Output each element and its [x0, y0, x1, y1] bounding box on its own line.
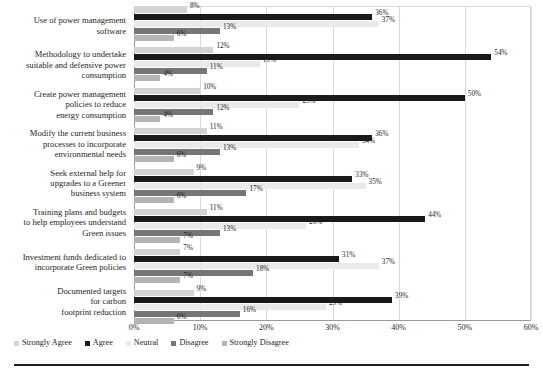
bar-value-label: 29%: [329, 300, 342, 307]
bar-group: 11%44%26%13%7%: [134, 209, 531, 248]
bar-row: 11%: [134, 128, 531, 134]
bar-row: 16%: [134, 311, 531, 317]
category-label-line: upgrades to a Greener: [50, 178, 126, 188]
bar[interactable]: [134, 109, 213, 115]
category-label: Investment funds dedicated toincorporate…: [0, 242, 130, 281]
bar-row: 36%: [134, 14, 531, 20]
bar-row: 50%: [134, 95, 531, 101]
category-label: Use of power managementsoftware: [0, 6, 130, 45]
bar-groups: 8%36%37%13%6%12%54%19%11%4%10%50%25%12%4…: [134, 6, 531, 321]
bar-value-label: 36%: [375, 131, 388, 138]
category-label-line: for carbon: [57, 296, 126, 306]
bar[interactable]: [134, 256, 339, 262]
x-tick-label: 20%: [259, 323, 274, 333]
bar-group: 12%54%19%11%4%: [134, 47, 531, 86]
bar-row: 4%: [134, 75, 531, 81]
bar[interactable]: [134, 176, 352, 182]
bar-row: 8%: [134, 7, 531, 13]
bar[interactable]: [134, 14, 372, 20]
bar[interactable]: [134, 75, 160, 81]
bar-row: 31%: [134, 256, 531, 262]
category-label-line: Documented targets: [57, 286, 126, 296]
legend-item[interactable]: Strongly Agree: [14, 338, 72, 348]
bar[interactable]: [134, 142, 359, 148]
bar[interactable]: [134, 209, 207, 215]
bar-value-label: 11%: [210, 64, 223, 71]
bar-value-label: 34%: [362, 138, 375, 145]
bar-value-label: 4%: [163, 112, 173, 119]
bar-value-label: 7%: [183, 245, 193, 252]
bar[interactable]: [134, 297, 392, 303]
bar-value-label: 12%: [216, 105, 229, 112]
legend-item[interactable]: Neutral: [126, 338, 159, 348]
bar-row: 34%: [134, 142, 531, 148]
bar[interactable]: [134, 95, 465, 101]
legend-label: Agree: [93, 338, 113, 348]
bar-row: 7%: [134, 277, 531, 283]
bar[interactable]: [134, 116, 160, 122]
bar[interactable]: [134, 270, 253, 276]
bar-row: 6%: [134, 156, 531, 162]
category-label-line: business system: [50, 188, 126, 198]
bar[interactable]: [134, 54, 491, 60]
bar[interactable]: [134, 169, 194, 175]
bar-group: 7%31%37%18%7%: [134, 249, 531, 288]
bar[interactable]: [134, 290, 194, 296]
bar[interactable]: [134, 88, 200, 94]
bar[interactable]: [134, 128, 207, 134]
bar-row: 54%: [134, 54, 531, 60]
bar[interactable]: [134, 249, 180, 255]
bar-value-label: 13%: [223, 226, 236, 233]
bar-value-label: 6%: [177, 152, 187, 159]
bar-row: 44%: [134, 216, 531, 222]
bar[interactable]: [134, 156, 174, 162]
bar[interactable]: [134, 223, 306, 229]
legend-item[interactable]: Strongly Disagree: [222, 338, 289, 348]
bar[interactable]: [134, 277, 180, 283]
bar-group: 8%36%37%13%6%: [134, 7, 531, 46]
bar-row: 18%: [134, 270, 531, 276]
bar-value-label: 6%: [177, 193, 187, 200]
bar-row: 35%: [134, 183, 531, 189]
bar-row: 12%: [134, 109, 531, 115]
bar[interactable]: [134, 190, 246, 196]
legend-item[interactable]: Agree: [85, 338, 113, 348]
x-tick-label: 10%: [193, 323, 208, 333]
legend-swatch-icon: [14, 341, 19, 346]
bar[interactable]: [134, 47, 213, 53]
bar-row: 9%: [134, 290, 531, 296]
bar-value-label: 17%: [249, 186, 262, 193]
bar-row: 37%: [134, 263, 531, 269]
bar[interactable]: [134, 61, 260, 67]
bar-value-label: 37%: [382, 17, 395, 24]
bar[interactable]: [134, 237, 180, 243]
bar[interactable]: [134, 7, 187, 13]
legend-item[interactable]: Disagree: [171, 338, 208, 348]
bar-row: 13%: [134, 28, 531, 34]
bar-value-label: 7%: [183, 233, 193, 240]
bar[interactable]: [134, 311, 240, 317]
bar-value-label: 39%: [395, 293, 408, 300]
legend-swatch-icon: [171, 341, 176, 346]
bar[interactable]: [134, 197, 174, 203]
category-label-line: consumption: [26, 70, 126, 80]
x-axis-tick-labels: 0%10%20%30%40%50%60%: [134, 323, 531, 337]
bar-row: 7%: [134, 249, 531, 255]
category-label: Create power managementpolicies to reduc…: [0, 85, 130, 124]
bar[interactable]: [134, 230, 220, 236]
bar-row: 11%: [134, 209, 531, 215]
bar[interactable]: [134, 21, 379, 27]
bar-value-label: 6%: [177, 31, 187, 38]
legend-label: Strongly Disagree: [230, 338, 289, 348]
bar[interactable]: [134, 216, 425, 222]
bar-row: 33%: [134, 176, 531, 182]
bar[interactable]: [134, 304, 326, 310]
bar-value-label: 13%: [223, 24, 236, 31]
bar-row: 4%: [134, 116, 531, 122]
bar[interactable]: [134, 135, 372, 141]
category-label-line: environmental needs: [30, 149, 126, 159]
bar[interactable]: [134, 35, 174, 41]
category-label-line: policies to reduce: [34, 99, 126, 109]
bar-value-label: 12%: [216, 43, 229, 50]
category-label-line: Methodology to undertake: [26, 49, 126, 59]
